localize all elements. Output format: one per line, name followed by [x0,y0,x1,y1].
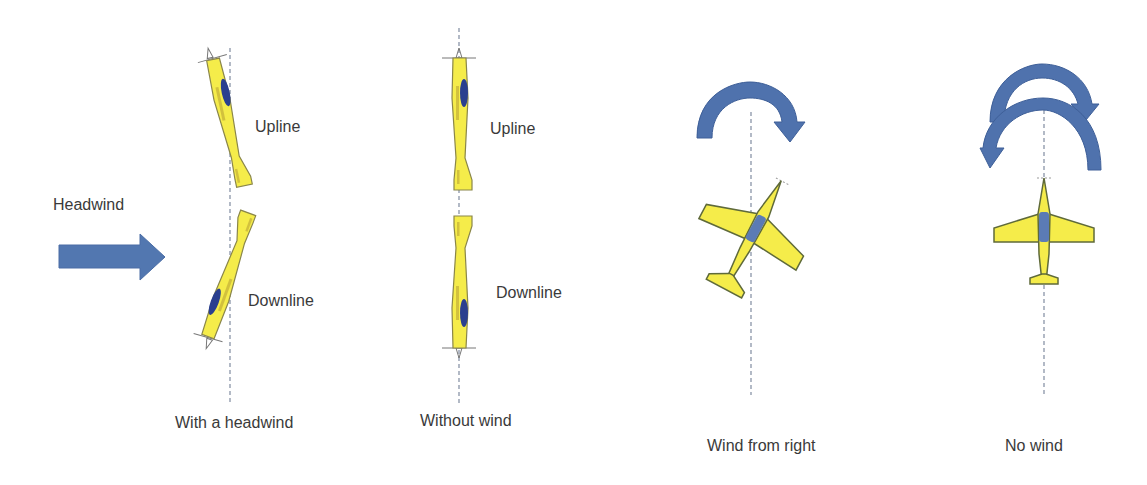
plane-upline-no-wind-icon [442,48,476,190]
panel-wind-from-right [675,82,829,395]
plane-downline-no-wind-icon [442,216,476,358]
caption-wind-from-right: Wind from right [707,437,815,455]
upline-label-headwind: Upline [255,118,300,136]
headwind-label: Headwind [53,196,124,214]
upline-label-no-wind: Upline [490,120,535,138]
downline-label-headwind: Downline [248,292,314,310]
caption-no-wind: No wind [1005,437,1063,455]
plane-upline-headwind-icon [195,45,254,190]
plane-top-view-no-wind-icon [994,178,1094,284]
diagram-canvas [0,0,1147,485]
panel-no-wind [980,64,1101,395]
panel-without-wind [442,28,476,405]
headwind-arrow-icon [59,234,165,280]
plane-downline-headwind-icon [190,209,267,353]
downline-label-no-wind: Downline [496,284,562,302]
caption-with-headwind: With a headwind [175,414,293,432]
panel-with-headwind [59,45,267,405]
plane-top-view-crosswind-icon [675,155,829,314]
caption-without-wind: Without wind [420,412,512,430]
